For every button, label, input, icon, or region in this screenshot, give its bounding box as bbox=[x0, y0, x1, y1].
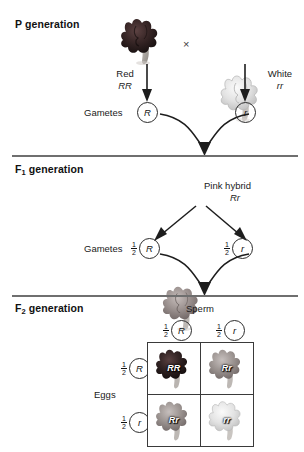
row-r-fraction: 1 2 bbox=[121, 415, 127, 430]
punnett-genotype-rr: rr bbox=[223, 415, 230, 425]
eggs-axis-label: Eggs bbox=[94, 389, 116, 400]
fraction-denominator: 2 bbox=[121, 423, 127, 430]
f1-fertilization-arrows bbox=[150, 248, 260, 296]
column-R-circle: R bbox=[171, 320, 192, 341]
section-divider-2 bbox=[12, 295, 298, 297]
f1-heading-rest: generation bbox=[26, 163, 84, 175]
section-divider-1 bbox=[12, 155, 298, 157]
fraction-denominator: 2 bbox=[131, 249, 137, 256]
column-R-fraction: 1 2 bbox=[163, 323, 169, 338]
p-fertilization-arrows bbox=[150, 108, 260, 156]
punnett-genotype-RR: RR bbox=[167, 363, 180, 373]
f2-heading-subscript: 2 bbox=[22, 307, 26, 316]
p-right-gamete-arrow bbox=[228, 62, 268, 104]
f2-heading-rest: generation bbox=[26, 302, 84, 314]
punnett-cell-Rr-bottom: Rr bbox=[148, 395, 201, 447]
f1-gamete-left-fraction: 1 2 bbox=[131, 241, 137, 256]
row-R-fraction: 1 2 bbox=[121, 361, 127, 376]
punnett-row-header-R: 1 2 R bbox=[121, 358, 150, 379]
p-gametes-label: Gametes bbox=[84, 107, 123, 118]
fraction-numerator: 1 bbox=[121, 361, 127, 368]
genetics-inheritance-diagram: P generation Red RR × bbox=[0, 0, 304, 452]
fraction-numerator: 1 bbox=[216, 323, 222, 330]
punnett-cell-Rr-top: Rr bbox=[201, 343, 254, 395]
punnett-cell-rr: rr bbox=[201, 395, 254, 447]
f1-offspring-phenotype-label: Pink hybrid bbox=[204, 180, 251, 191]
red-parent-flower-icon bbox=[116, 10, 304, 66]
f2-generation-heading: F2 generation bbox=[15, 302, 84, 314]
punnett-column-header-R: 1 2 R bbox=[163, 320, 192, 341]
punnett-genotype-Rr-bottom: Rr bbox=[169, 415, 179, 425]
column-r-fraction: 1 2 bbox=[216, 323, 222, 338]
punnett-square: RR Rr bbox=[147, 342, 254, 447]
column-r-circle: r bbox=[224, 320, 245, 341]
sperm-axis-label: Sperm bbox=[160, 303, 240, 314]
fraction-numerator: 1 bbox=[131, 241, 137, 248]
cross-symbol-icon: × bbox=[183, 38, 189, 50]
punnett-cell-RR: RR bbox=[148, 343, 201, 395]
punnett-genotype-Rr-top: Rr bbox=[222, 363, 232, 373]
fraction-denominator: 2 bbox=[163, 331, 169, 338]
fraction-denominator: 2 bbox=[216, 331, 222, 338]
f1-generation-heading: F1 generation bbox=[15, 163, 84, 175]
p-generation-heading: P generation bbox=[15, 18, 80, 30]
f1-heading-letter: F bbox=[15, 163, 22, 175]
p-left-gamete-arrow bbox=[130, 62, 170, 104]
fraction-numerator: 1 bbox=[224, 241, 230, 248]
punnett-column-header-r: 1 2 r bbox=[216, 320, 245, 341]
f1-heading-subscript: 1 bbox=[22, 168, 26, 177]
fraction-numerator: 1 bbox=[163, 323, 169, 330]
f2-heading-letter: F bbox=[15, 302, 22, 314]
fraction-numerator: 1 bbox=[121, 415, 127, 422]
fraction-denominator: 2 bbox=[121, 369, 127, 376]
punnett-row-header-r: 1 2 r bbox=[121, 412, 150, 433]
f1-gametes-label: Gametes bbox=[84, 243, 123, 254]
